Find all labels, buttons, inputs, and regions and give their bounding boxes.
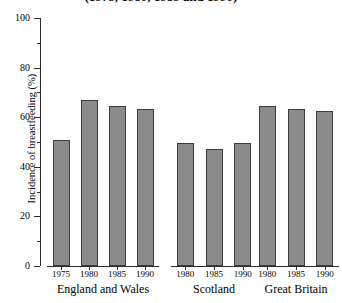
- bar: [177, 143, 194, 266]
- y-axis-tick: [34, 18, 40, 19]
- bar: [81, 100, 98, 266]
- x-axis-year-label: 1990: [308, 270, 342, 279]
- x-axis-group-label: England and Wales: [47, 283, 159, 296]
- x-axis-group-label: Great Britain: [253, 283, 339, 296]
- bar-group: [47, 18, 159, 266]
- bars-row: [47, 18, 159, 266]
- y-axis-tick-label: 20: [0, 211, 30, 221]
- bar: [259, 106, 276, 266]
- y-axis-minor-tick: [37, 92, 40, 93]
- y-axis-tick-label: 60: [0, 112, 30, 122]
- bar: [288, 109, 305, 266]
- bars-row: [253, 18, 339, 266]
- y-axis-tick: [34, 266, 40, 267]
- y-axis-tick: [34, 216, 40, 217]
- chart-title: (1975, 1980, 1985 and 1990): [0, 0, 322, 5]
- y-axis-minor-tick: [37, 43, 40, 44]
- x-axis-year-label: 1990: [128, 270, 162, 279]
- bar: [109, 106, 126, 266]
- plot-area: [41, 18, 322, 266]
- y-axis-tick-label: 100: [0, 13, 30, 23]
- y-axis-tick-label: 40: [0, 162, 30, 172]
- y-axis-minor-tick: [37, 142, 40, 143]
- x-axis-group-label: Scotland: [171, 283, 257, 296]
- group-baseline: [47, 266, 159, 267]
- bar-group: [253, 18, 339, 266]
- bar: [234, 143, 251, 266]
- y-axis-minor-tick: [37, 241, 40, 242]
- y-axis-tick: [34, 68, 40, 69]
- y-axis-tick-label: 0: [0, 261, 30, 271]
- bar: [53, 140, 70, 266]
- bar: [316, 111, 333, 266]
- bars-row: [171, 18, 257, 266]
- y-axis-tick: [34, 117, 40, 118]
- bar: [206, 149, 223, 266]
- y-axis-minor-tick: [37, 192, 40, 193]
- bar-group: [171, 18, 257, 266]
- bar: [137, 109, 154, 266]
- y-axis-tick-label: 80: [0, 63, 30, 73]
- y-axis-tick: [34, 167, 40, 168]
